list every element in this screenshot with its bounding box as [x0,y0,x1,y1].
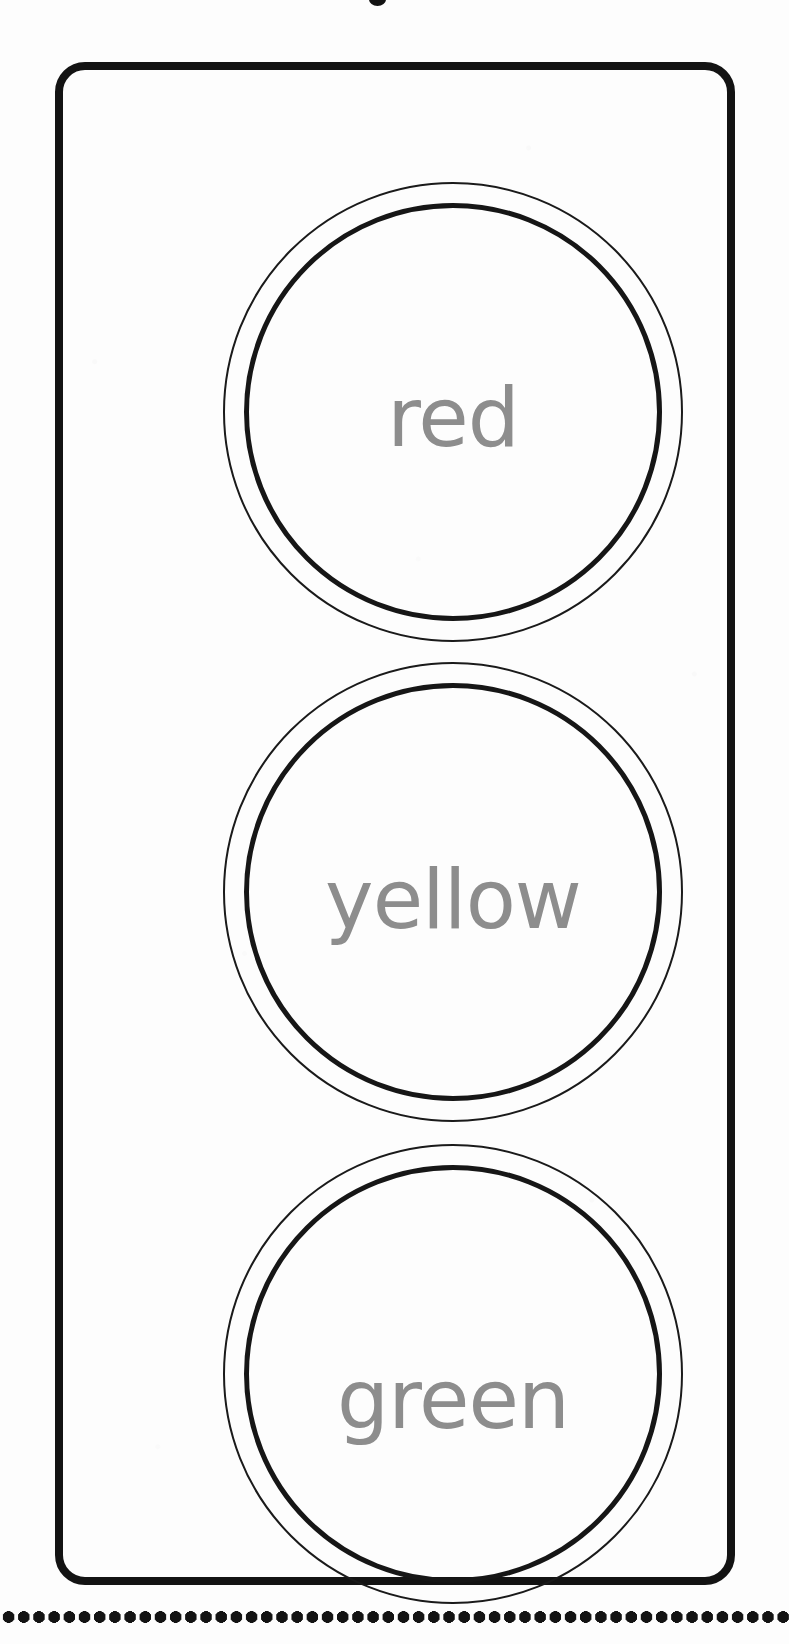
light-red-label: red [244,209,662,627]
clipped-title-ink-mark [369,0,386,6]
light-green[interactable]: green [223,1144,683,1604]
worksheet-page: red yellow green [0,0,789,1644]
light-yellow-label: yellow [244,691,662,1109]
light-green-label: green [244,1191,662,1609]
dotted-cut-line [0,1611,789,1623]
light-red[interactable]: red [223,182,683,642]
traffic-light-body: red yellow green [55,62,735,1585]
light-yellow[interactable]: yellow [223,662,683,1122]
